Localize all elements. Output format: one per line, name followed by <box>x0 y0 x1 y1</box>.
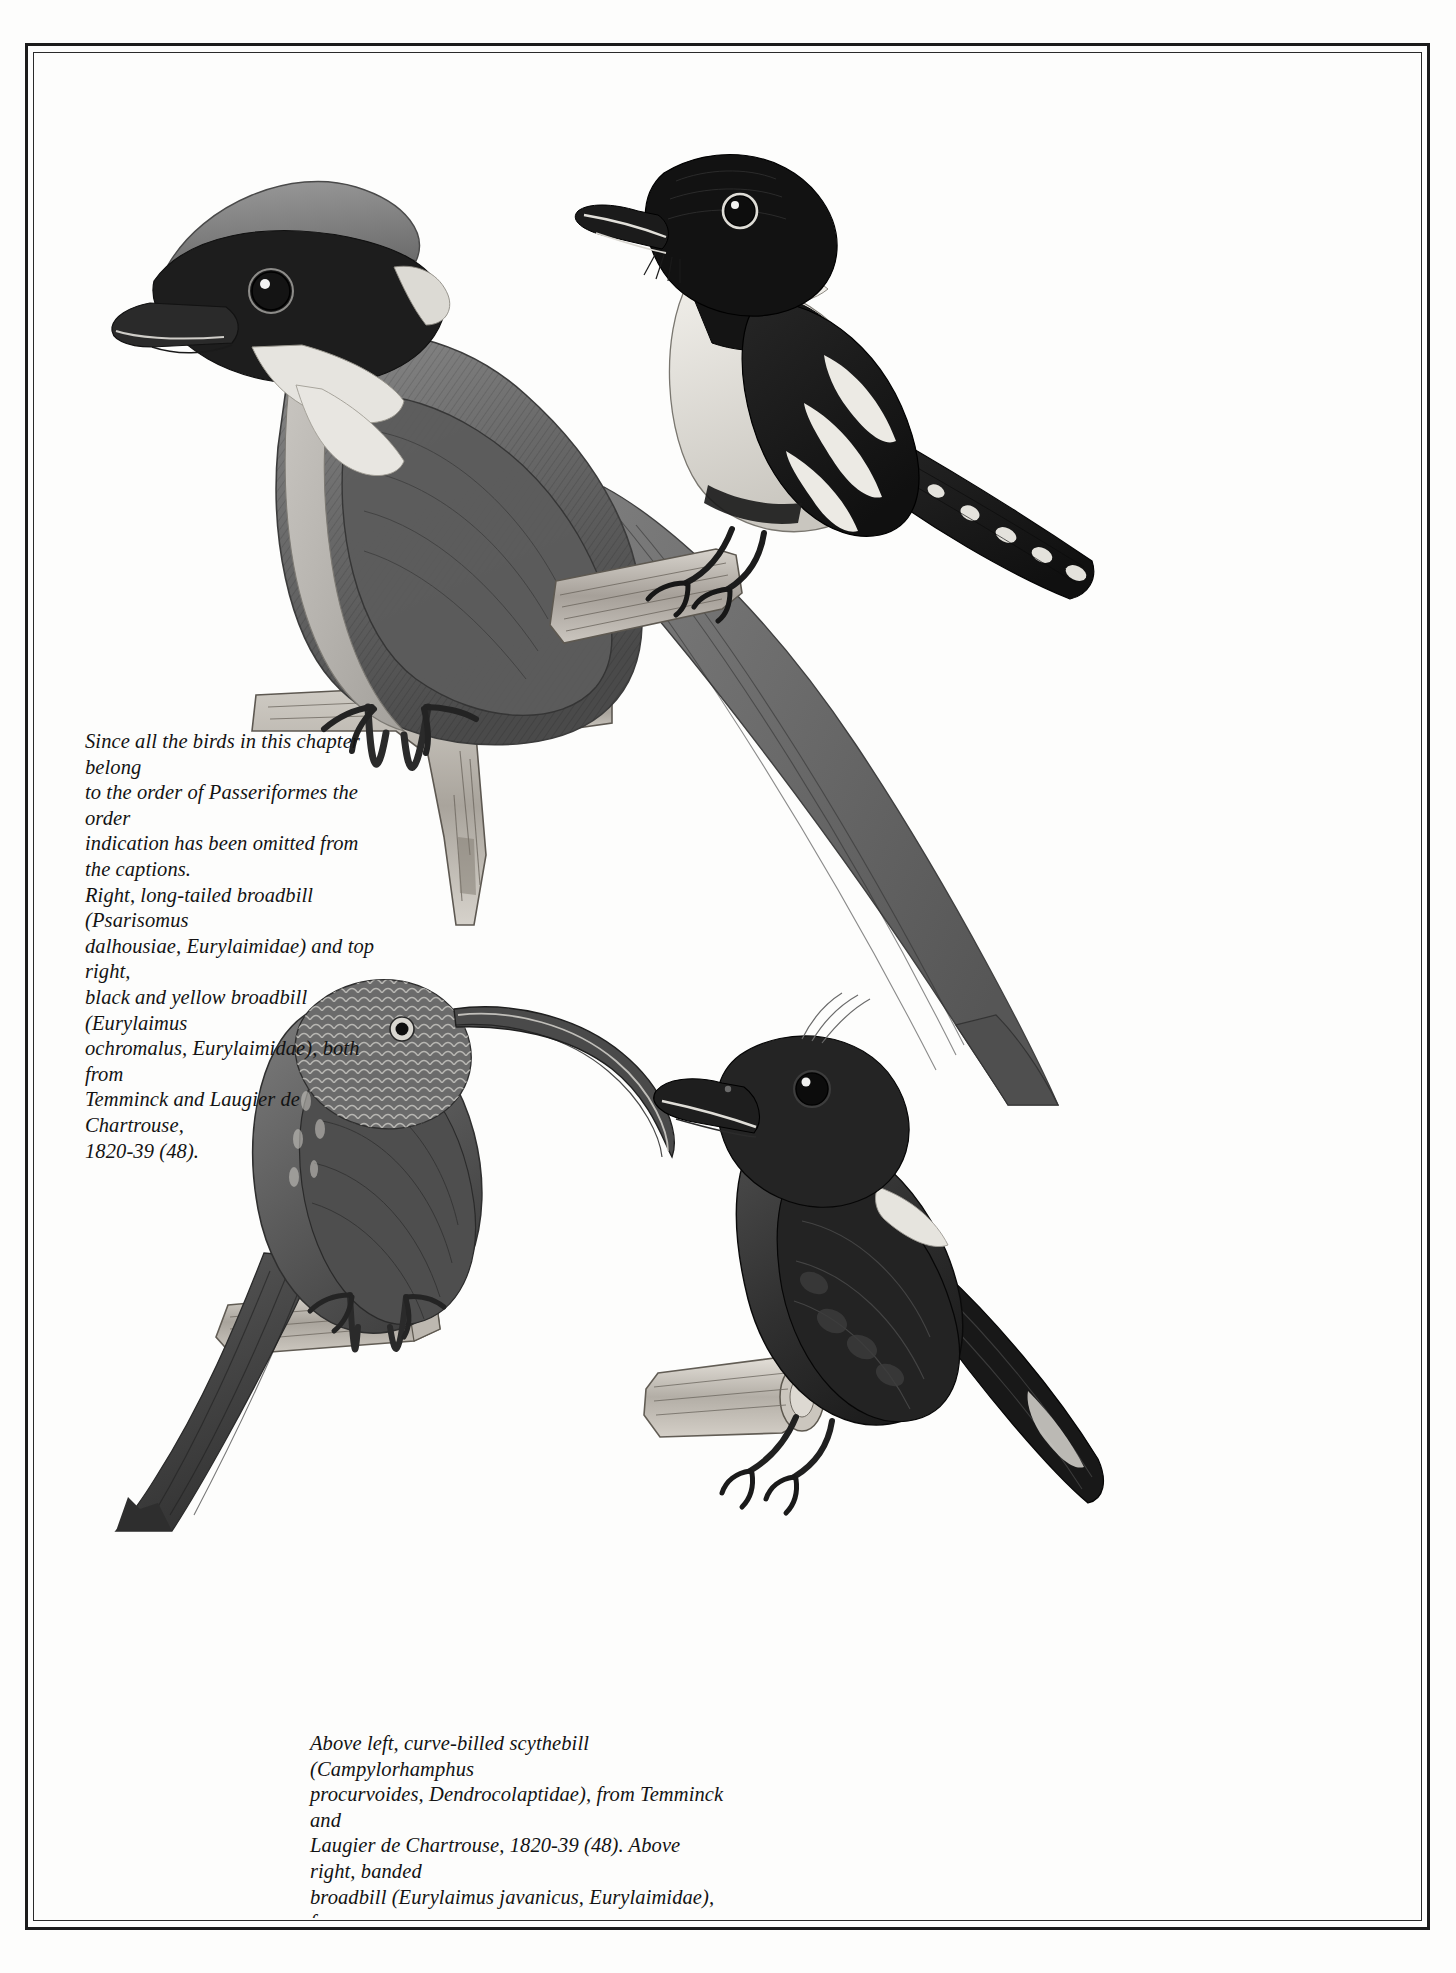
caption-line: Above left, curve-billed scythebill (Cam… <box>310 1731 730 1782</box>
caption-line: the captions. <box>85 857 385 883</box>
bird-head-black-and-yellow-broadbill <box>575 155 837 317</box>
caption-line: Laugier de Chartrouse, 1820-39 (48). Abo… <box>310 1833 730 1884</box>
figure-black-and-yellow-broadbill <box>536 103 1096 673</box>
bird-head-banded-broadbill <box>654 993 909 1207</box>
caption-line: dalhousiae, Eurylaimidae) and top right, <box>85 934 385 985</box>
caption-bottom: Above left, curve-billed scythebill (Cam… <box>310 1731 730 1918</box>
caption-line: to the order of Passeriformes the order <box>85 780 385 831</box>
caption-line: indication has been omitted from <box>85 831 385 857</box>
caption-line: 1820-39 (48). <box>85 1139 385 1165</box>
caption-line: Right, long-tailed broadbill (Psarisomus <box>85 883 385 934</box>
caption-line: Temminck and Laugier de Chartrouse, <box>85 1087 385 1138</box>
caption-top-left: Since all the birds in this chapter belo… <box>85 729 385 1164</box>
caption-line: procurvoides, Dendrocolaptidae), from Te… <box>310 1782 730 1833</box>
bird-tail-curve-billed-scythebill <box>116 1253 314 1531</box>
caption-line: broadbill (Eurylaimus javanicus, Eurylai… <box>310 1885 730 1918</box>
bird-feet-banded-broadbill <box>722 1471 797 1513</box>
illustration-plate: Since all the birds in this chapter belo… <box>36 55 1419 1918</box>
caption-line: Since all the birds in this chapter belo… <box>85 729 385 780</box>
caption-line: black and yellow broadbill (Eurylaimus <box>85 985 385 1036</box>
figure-banded-broadbill <box>636 985 1156 1545</box>
book-page: Since all the birds in this chapter belo… <box>0 0 1456 1973</box>
caption-line: ochromalus, Eurylaimidae), both from <box>85 1036 385 1087</box>
